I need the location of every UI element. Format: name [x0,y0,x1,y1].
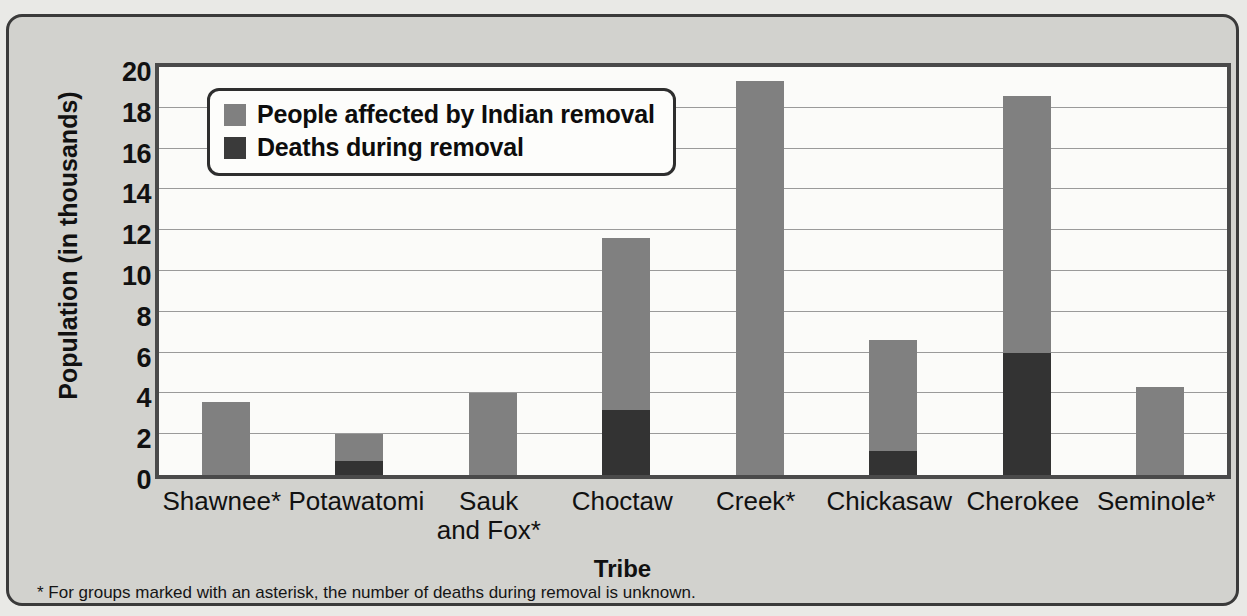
y-tick-label: 6 [91,345,151,353]
x-tick-label: Potawatomi [289,487,423,516]
y-tick-label: 10 [91,263,151,271]
bar-group [693,67,827,475]
x-tick-label: Chickasaw [823,487,957,516]
dark-gray-swatch-icon [224,137,246,159]
bar-group [827,67,961,475]
bar [1003,67,1051,475]
bar-group [960,67,1094,475]
bar-segment-deaths [1003,353,1051,475]
legend-item-affected: People affected by Indian removal [224,98,655,131]
x-tick-label: Shawnee* [155,487,289,516]
x-axis-categories: Shawnee*PotawatomiSaukand Fox*ChoctawCre… [155,487,1231,557]
y-tick-label: 0 [91,467,151,475]
x-axis-title: Tribe [9,555,1236,583]
bar-segment-deaths [602,410,650,475]
legend-label-deaths: Deaths during removal [257,133,524,162]
bar-segment-affected [1136,387,1184,475]
legend-label-affected: People affected by Indian removal [257,100,655,129]
x-tick-label: Seminole* [1090,487,1224,516]
y-tick-label: 20 [91,59,151,67]
x-tick-label: Creek* [689,487,823,516]
legend: People affected by Indian removal Deaths… [207,88,676,176]
plot-area: People affected by Indian removal Deaths… [155,63,1231,479]
y-axis-ticks: 02468101214161820 [75,63,151,479]
y-tick-label: 4 [91,385,151,393]
bar [736,67,784,475]
y-tick-label: 18 [91,100,151,108]
figure-panel: Population (in thousands) 02468101214161… [6,14,1239,606]
bar-segment-affected [202,402,250,475]
light-gray-swatch-icon [224,104,246,126]
figure-screenshot: Population (in thousands) 02468101214161… [0,0,1247,616]
x-tick-label: Choctaw [556,487,690,516]
bar-segment-affected [736,81,784,475]
y-tick-label: 8 [91,304,151,312]
bar [869,67,917,475]
bar-segment-deaths [869,451,917,475]
bar-segment-affected [469,393,517,475]
y-tick-label: 16 [91,141,151,149]
y-tick-label: 12 [91,222,151,230]
bar-group [1094,67,1228,475]
y-tick-label: 2 [91,426,151,434]
bar [1136,67,1184,475]
y-tick-label: 14 [91,181,151,189]
legend-item-deaths: Deaths during removal [224,131,655,164]
figure-footnote: * For groups marked with an asterisk, th… [37,583,696,603]
x-tick-label: Saukand Fox* [422,487,556,545]
bar-segment-deaths [335,461,383,475]
x-tick-label: Cherokee [956,487,1090,516]
